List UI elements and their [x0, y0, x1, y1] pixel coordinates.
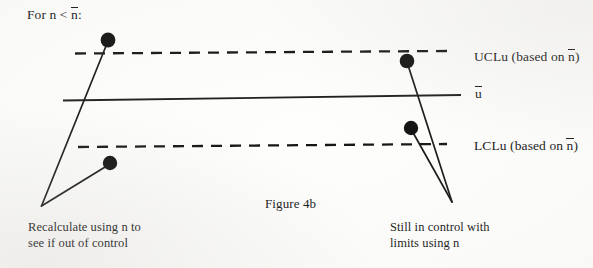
left-lower-connector: [42, 164, 111, 206]
u-bar-symbol: u: [475, 85, 482, 102]
ucl-label-suffix: ): [575, 49, 580, 64]
left-note-line-2: see if out of control: [28, 235, 141, 251]
center-line-ubar: [63, 95, 461, 101]
lcl-label-prefix: LCLu (based on: [474, 138, 567, 153]
lcl-label: LCLu (based on n): [474, 137, 578, 154]
ucl-label: UCLu (based on n): [474, 48, 580, 65]
left-sample-connectors: [42, 41, 111, 206]
figure-condition-header: For n < n:: [27, 6, 82, 23]
right-note-line-2: limits using n: [390, 235, 490, 251]
left-note-line-1: Recalculate using n to: [28, 219, 141, 235]
condition-prefix: For n <: [27, 7, 71, 22]
right-annotation-note: Still in control withlimits using n: [390, 219, 490, 251]
condition-suffix: :: [78, 7, 82, 22]
right-note-line-1: Still in control with: [390, 219, 490, 235]
data-point-left-lower: [103, 156, 117, 170]
figure-caption: Figure 4b: [265, 196, 316, 213]
ucl-label-prefix: UCLu (based on: [474, 49, 568, 64]
n-bar-symbol: n: [568, 48, 575, 65]
control-chart-figure: For n < n: UCLu (based on n) u LCLu (bas…: [0, 0, 593, 268]
left-annotation-note: Recalculate using n tosee if out of cont…: [28, 219, 141, 251]
ucl-dashed-line: [75, 51, 447, 54]
lcl-label-suffix: ): [573, 138, 578, 153]
n-bar-symbol: n: [71, 6, 78, 23]
lcl-dashed-line: [78, 144, 447, 147]
center-line-label: u: [475, 85, 482, 102]
data-point-markers: [101, 33, 419, 171]
data-point-right-lower: [404, 121, 418, 135]
data-point-left-upper: [101, 33, 116, 48]
n-bar-symbol: n: [567, 137, 574, 154]
data-point-right-upper: [400, 54, 415, 69]
left-upper-connector: [42, 41, 109, 206]
